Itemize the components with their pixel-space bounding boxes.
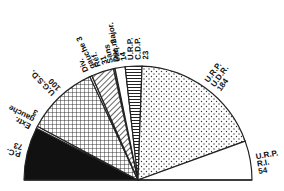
slice-label: P.C.73 [6,139,24,158]
slice-label: U.R.P.R.I.54 [255,148,281,176]
slice-label: Extr.gauche3 [3,96,39,130]
slice-label: U.G.S.D.100 [28,63,62,98]
slice-label: U.R.P.U.D.R.184 [203,59,237,93]
slice-label: U.R.P.C.D.P.23 [125,37,150,60]
parliament-semicircle-chart: P.C.73Extr.gauche3U.G.S.D.100Div.gauche … [0,0,284,191]
